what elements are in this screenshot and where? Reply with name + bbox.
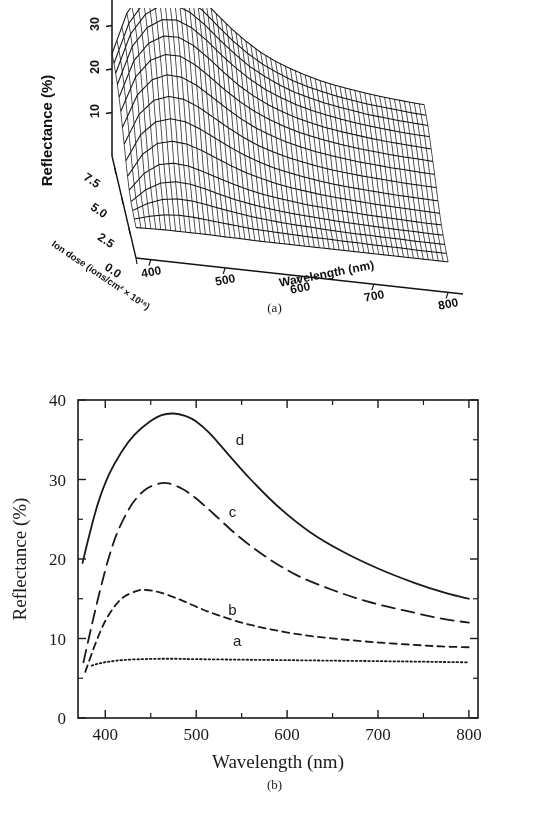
panel-a-caption: (a) bbox=[0, 300, 549, 316]
panel-b-caption: (b) bbox=[0, 777, 549, 793]
panel-a-y-tick-label: 30 bbox=[88, 11, 102, 37]
panel-b-y-tick-label: 30 bbox=[49, 471, 66, 490]
panel-a-y-axis-label: Reflectance (%) bbox=[38, 51, 55, 211]
panel-b-x-tick-label: 700 bbox=[365, 725, 391, 744]
curve-label-c: c bbox=[229, 503, 237, 520]
curve-label-a: a bbox=[233, 632, 242, 649]
surface-mesh-canvas bbox=[96, 8, 476, 298]
panel-b-svg: 400500600700800010203040 abcd Wavelength… bbox=[0, 340, 549, 780]
curve-a bbox=[92, 659, 469, 666]
panel-b-x-tick-label: 600 bbox=[274, 725, 300, 744]
curve-d bbox=[83, 413, 469, 598]
panel-b-y-axis-label: Reflectance (%) bbox=[9, 498, 31, 621]
panel-b-y-tick-label: 20 bbox=[49, 550, 66, 569]
panel-a-y-tick-label: 20 bbox=[88, 54, 102, 80]
curve-label-d: d bbox=[236, 431, 244, 448]
curve-c bbox=[83, 483, 468, 663]
panel-b-y-tick-label: 0 bbox=[58, 709, 67, 728]
plot-frame-group bbox=[78, 400, 478, 718]
panel-b-line-plot: 400500600700800010203040 abcd Wavelength… bbox=[0, 340, 549, 821]
tick-group bbox=[78, 400, 478, 718]
curve-group bbox=[83, 413, 469, 671]
plot-frame bbox=[78, 400, 478, 718]
panel-b-y-tick-label: 40 bbox=[49, 391, 66, 410]
panel-b-x-axis-label: Wavelength (nm) bbox=[212, 751, 344, 773]
panel-b-x-tick-label: 800 bbox=[456, 725, 482, 744]
tick-label-group: 400500600700800010203040 bbox=[49, 391, 482, 744]
curve-label-b: b bbox=[228, 601, 236, 618]
panel-b-y-tick-label: 10 bbox=[49, 630, 66, 649]
panel-a-surface-plot: Reflectance (%) Ion dose (ions/cm² × 10¹… bbox=[0, 0, 549, 340]
panel-a-y-tick-label: 10 bbox=[88, 98, 102, 124]
figure-container: Reflectance (%) Ion dose (ions/cm² × 10¹… bbox=[0, 0, 549, 821]
panel-b-x-tick-label: 500 bbox=[183, 725, 209, 744]
panel-b-x-tick-label: 400 bbox=[93, 725, 119, 744]
